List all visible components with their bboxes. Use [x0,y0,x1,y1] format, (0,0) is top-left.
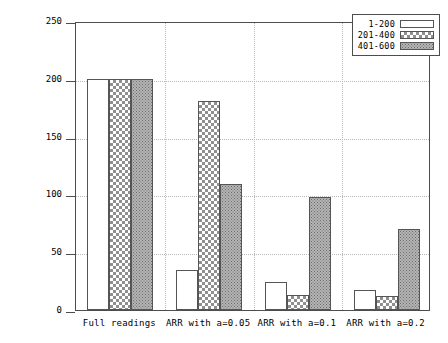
plot-area [75,22,430,311]
legend-label: 201-400 [358,30,395,40]
legend-item: 201-400 [358,30,434,40]
y-axis-tick-label: 250 [30,17,62,26]
bar [354,290,376,310]
y-axis-tick [66,196,75,197]
x-axis-tick-label: ARR with a=0.2 [331,318,441,328]
gridline-vertical [254,23,255,310]
y-axis-tick [66,81,75,82]
y-axis-tick-label: 0 [30,306,62,315]
bar [198,101,220,310]
y-axis-tick-label: 100 [30,190,62,199]
gridline-vertical [342,23,343,310]
bar [309,197,331,310]
bar [287,295,309,310]
legend-swatch [400,31,434,39]
legend-label: 1-200 [368,19,395,29]
legend-label: 401-600 [358,41,395,51]
bar [131,79,153,310]
bar [376,296,398,310]
legend-swatch [400,42,434,50]
bar [265,282,287,310]
bar [220,184,242,310]
gridline-vertical [165,23,166,310]
y-axis-tick [66,23,75,24]
y-axis-tick-label: 200 [30,75,62,84]
bar [176,270,198,310]
legend-item: 1-200 [358,19,434,29]
bar [109,79,131,310]
y-axis-tick-label: 150 [30,133,62,142]
bar [398,229,420,310]
legend-swatch [400,20,434,28]
chart-figure: Number of packet transmission 0501001502… [0,0,448,343]
y-axis-tick [66,312,75,313]
chart-legend: 1-200201-400401-600 [352,14,440,56]
bar [87,79,109,310]
y-axis-tick [66,254,75,255]
y-axis-tick [66,139,75,140]
y-axis-tick-label: 50 [30,248,62,257]
legend-item: 401-600 [358,41,434,51]
